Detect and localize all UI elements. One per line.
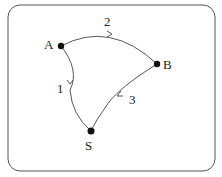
- node-s-label: S: [85, 138, 92, 153]
- arrowhead-icon: [117, 91, 123, 96]
- edge-2-label: 2: [104, 14, 111, 29]
- graph-diagram: A B S 1 2 3: [0, 0, 222, 177]
- edge-a-to-s: [61, 46, 91, 131]
- arrowhead-icon: [107, 31, 112, 37]
- edge-a-to-b: [61, 31, 157, 64]
- edge-b-to-s: [91, 64, 157, 131]
- node-a-dot: [58, 43, 64, 49]
- edge-3-label: 3: [129, 92, 136, 107]
- node-s-dot: [88, 128, 95, 135]
- node-b-label: B: [163, 57, 172, 72]
- node-a-label: A: [44, 37, 54, 52]
- node-b-dot: [154, 61, 160, 67]
- frame-border: [8, 5, 215, 171]
- edge-1-label: 1: [57, 81, 64, 96]
